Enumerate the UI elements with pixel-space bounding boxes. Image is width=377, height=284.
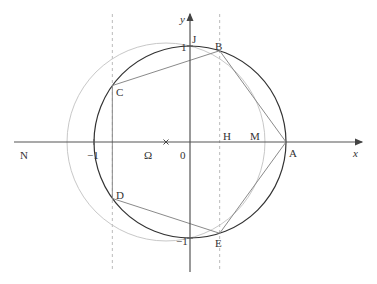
point-label-c: C <box>116 86 123 98</box>
tick-label-y-one: 1 <box>181 41 187 53</box>
point-label-a: A <box>289 147 297 159</box>
point-label-omega: Ω <box>144 149 152 161</box>
y-axis-label: y <box>179 13 185 25</box>
point-label-m: M <box>250 130 260 142</box>
point-label-d: D <box>116 189 124 201</box>
tick-label-y-minus-one: −1 <box>176 235 188 247</box>
point-label-j: J <box>192 33 197 45</box>
point-label-n: N <box>20 149 28 161</box>
point-label-b: B <box>215 40 222 52</box>
point-label-e: E <box>215 237 222 249</box>
pentagon-construction-figure: x y 0 −1 1 −1 A B C D E J H M N Ω <box>0 0 377 284</box>
origin-label: 0 <box>180 149 186 161</box>
point-label-h: H <box>223 130 231 142</box>
x-axis-label: x <box>352 147 358 159</box>
tick-label-x-minus-one: −1 <box>87 149 99 161</box>
